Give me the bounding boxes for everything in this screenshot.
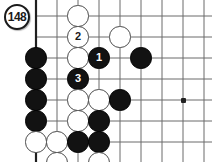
go-diagram: 148 213 bbox=[0, 0, 212, 162]
stone-white bbox=[88, 152, 109, 162]
stone-black bbox=[25, 68, 46, 89]
stone-move-number: 3 bbox=[75, 73, 81, 84]
stone-black bbox=[25, 89, 46, 110]
stone-black bbox=[25, 47, 46, 68]
stone-layer: 213 bbox=[0, 0, 212, 162]
stone-white bbox=[88, 89, 109, 110]
stone-black bbox=[130, 47, 151, 68]
stone-black-move-1: 1 bbox=[88, 47, 109, 68]
stone-black bbox=[88, 131, 109, 152]
stone-black bbox=[109, 89, 130, 110]
stone-white-move-2: 2 bbox=[67, 26, 88, 47]
stone-white bbox=[109, 26, 130, 47]
star-point bbox=[181, 98, 186, 103]
stone-white bbox=[67, 47, 88, 68]
stone-move-number: 2 bbox=[75, 31, 81, 42]
stone-black bbox=[25, 110, 46, 131]
stone-black-move-3: 3 bbox=[67, 68, 88, 89]
stone-black bbox=[67, 131, 88, 152]
stone-white bbox=[67, 110, 88, 131]
stone-white bbox=[25, 131, 46, 152]
stone-white bbox=[67, 89, 88, 110]
stone-white bbox=[67, 5, 88, 26]
stone-move-number: 1 bbox=[96, 52, 102, 63]
stone-white bbox=[46, 152, 67, 162]
stone-black bbox=[88, 110, 109, 131]
stone-white bbox=[46, 131, 67, 152]
